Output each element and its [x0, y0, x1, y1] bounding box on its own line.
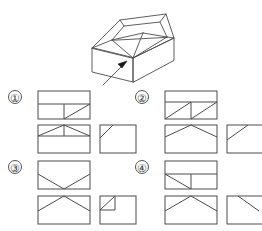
view-direction-arrowhead [118, 61, 127, 68]
option-1-view-side [99, 124, 137, 154]
diagonal-right-down-to-bottom-center [64, 174, 90, 189]
option-1-view-front [37, 124, 91, 154]
diagonal-left-down-to-bottom-center [38, 174, 64, 189]
solid-figure-svg [0, 0, 262, 88]
option-1-view-top [37, 90, 91, 120]
option-1[interactable]: ① [6, 88, 131, 158]
notch-edge-right [133, 37, 167, 58]
diagonal-lower-right [64, 104, 90, 119]
option-2[interactable]: ② [133, 88, 262, 158]
option-4[interactable]: ④ [133, 158, 262, 231]
slope-fold-left [92, 40, 112, 48]
diagonal-right-to-apex [64, 196, 90, 211]
option-4-view-front [164, 195, 218, 225]
projection-question-page: ① [0, 0, 262, 231]
options-panel: ① [0, 88, 262, 231]
diagonal-top-left-down-to-right [238, 196, 259, 211]
diagonal-right-to-apex [191, 125, 217, 137]
option-2-view-side [226, 124, 262, 154]
diagonal-right-to-apex [64, 125, 90, 136]
outer-rectangle [38, 161, 90, 189]
roof-plateau [112, 22, 167, 40]
outer-rectangle [100, 125, 136, 153]
diagonal-right-bl-to-tr [191, 102, 217, 119]
option-3-view-top [37, 160, 91, 190]
slope-fold-top-right [160, 14, 166, 22]
diagonal-left-to-apex [38, 196, 64, 211]
slope-fold-right [167, 37, 174, 38]
option-2-view-front [164, 124, 218, 154]
option-1-label: ① [8, 90, 22, 104]
outer-rectangle [165, 125, 217, 153]
slope-fold-top-left [120, 20, 124, 26]
option-4-view-side [226, 195, 262, 225]
outer-rectangle [165, 196, 217, 224]
solid-figure-panel [0, 0, 262, 88]
diagonal-right-to-apex [191, 196, 217, 211]
diagonal-inside-small-square [100, 196, 115, 210]
diagonal-left-bl-to-tr [165, 102, 191, 119]
option-3-view-front [37, 195, 91, 225]
outer-rectangle [227, 125, 262, 153]
short-diagonal-top-left [100, 125, 113, 138]
option-3-view-side [99, 195, 137, 225]
diagonal-left-to-apex [165, 125, 191, 137]
diagonal-left-to-apex [38, 125, 64, 136]
notch-ridge-right [143, 33, 167, 37]
option-3[interactable]: ③ [6, 158, 131, 231]
option-2-view-top [164, 90, 218, 120]
option-4-view-top [164, 160, 218, 190]
block-front-right-face [133, 38, 174, 82]
option-2-label: ② [135, 90, 149, 104]
diagonal-lower-left-tl-to-br [165, 174, 191, 189]
option-4-label: ④ [135, 160, 149, 174]
diagonal-left-to-apex [165, 196, 191, 211]
diagonal-bl-to-tr-partial [227, 125, 248, 140]
option-3-label: ③ [8, 160, 22, 174]
outer-rectangle [38, 196, 90, 224]
